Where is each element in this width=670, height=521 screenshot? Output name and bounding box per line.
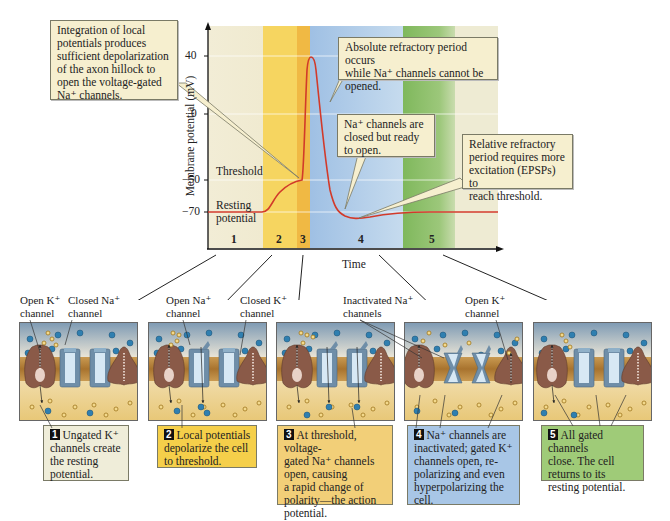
- step-line: hyperpolarizing the: [414, 481, 514, 494]
- step-line: the resting: [50, 455, 123, 468]
- step-line: polarizing and even: [414, 468, 514, 481]
- k-ion-icon: [606, 403, 610, 407]
- callout-line: Na⁺ channels.: [57, 89, 171, 102]
- k-ion-icon: [319, 413, 323, 417]
- callout-line: Relative refractory: [469, 138, 566, 151]
- step-line: a rapid change of: [284, 481, 387, 494]
- k-ion-icon: [243, 407, 247, 411]
- step-line: open, causing: [284, 468, 387, 481]
- step-line: channels create: [50, 442, 123, 455]
- step-line: Local potentials: [177, 429, 251, 441]
- step-box-5: 5All gated channels close. The cell retu…: [541, 425, 644, 481]
- na-ion-icon: [45, 408, 51, 414]
- step-box-3: 3At threshold, voltage- gated Na⁺ channe…: [277, 425, 393, 505]
- k-ion-icon: [544, 405, 548, 409]
- na-ion-icon: [238, 332, 244, 338]
- k-ion-icon: [499, 407, 503, 411]
- na-ion-icon: [334, 330, 340, 336]
- na-ion-icon: [440, 332, 446, 338]
- label-open-k-channel-1: Open K⁺channel: [20, 294, 60, 319]
- k-ion-icon: [54, 343, 58, 347]
- na-ion-icon: [541, 336, 547, 342]
- k-ion-icon: [191, 413, 195, 417]
- na-ion-icon: [623, 332, 629, 338]
- na-ion-icon: [127, 340, 133, 346]
- membrane-illustration: [405, 323, 522, 420]
- y-tick-label-0: 0: [191, 107, 197, 119]
- label-inactivated-na-channels: Inactivated Na⁺channels: [343, 294, 413, 319]
- k-ion-icon: [299, 331, 303, 335]
- y-axis-label: Membrane potential (mV): [184, 66, 196, 206]
- na-ion-icon: [256, 340, 262, 346]
- k-ion-icon: [48, 399, 52, 403]
- k-ion-icon: [628, 407, 632, 411]
- step-line: channels open, re-: [414, 455, 514, 468]
- k-ion-icon: [114, 407, 118, 411]
- k-ion-icon: [257, 401, 261, 405]
- step-box-4: 4Na⁺ channels are inactivated; gated K⁺ …: [407, 425, 520, 505]
- callout-line: to open.: [344, 144, 428, 157]
- membrane-panel-3: [276, 322, 395, 421]
- resting-label-1: Resting: [216, 199, 251, 212]
- step-line: At threshold, voltage-: [284, 429, 357, 454]
- phase-number-1: 1: [231, 233, 237, 245]
- membrane-illustration: [20, 323, 137, 420]
- step-line: Na⁺ channels are: [427, 429, 507, 441]
- na-ion-icon: [304, 412, 310, 418]
- k-ion-icon: [287, 405, 291, 409]
- membrane-illustration: [277, 323, 394, 420]
- k-ion-icon: [104, 413, 108, 417]
- na-ion-icon: [434, 346, 440, 352]
- k-ion-icon: [159, 405, 163, 409]
- step-line: potential.: [284, 507, 387, 520]
- integration-callout: Integration of local potentials produces…: [50, 20, 178, 100]
- k-ion-icon: [562, 399, 566, 403]
- k-ion-icon: [30, 405, 34, 409]
- step-line: polarity—the action: [284, 494, 387, 507]
- na-ion-icon: [109, 332, 115, 338]
- k-ion-icon: [564, 339, 568, 343]
- na-ion-icon: [494, 332, 500, 338]
- step-line: depolarize the cell: [164, 442, 251, 455]
- step-line: potential.: [50, 468, 123, 481]
- k-ion-icon: [305, 399, 309, 403]
- y-tick-label-40: 40: [185, 49, 197, 61]
- absolute-refractory-callout: Absolute refractory period occurs while …: [338, 37, 498, 80]
- k-ion-icon: [515, 337, 519, 341]
- phase-number-2: 2: [276, 233, 282, 245]
- label-open-k-channel-4: Open K⁺channel: [465, 294, 505, 319]
- na-ion-icon: [569, 332, 575, 338]
- k-ion-icon: [46, 331, 50, 335]
- k-ion-icon: [221, 403, 225, 407]
- na-ion-icon: [156, 336, 162, 342]
- resting-label-2: potential: [216, 212, 256, 225]
- na-ion-icon: [354, 404, 360, 410]
- k-ion-icon: [171, 331, 175, 335]
- na-ion-icon: [412, 336, 418, 342]
- na-ion-icon: [55, 332, 61, 338]
- phase-number-3: 3: [300, 233, 306, 245]
- na-ion-icon: [326, 404, 332, 410]
- k-ion-icon: [349, 403, 353, 407]
- step-line: resting potential.: [548, 481, 638, 494]
- na-ion-icon: [462, 330, 468, 336]
- k-ion-icon: [427, 331, 431, 335]
- callout-line: excitation (EPSPs) to: [469, 164, 566, 190]
- x-axis-arrow-icon: [496, 246, 504, 252]
- phase-band-2: [263, 26, 297, 248]
- phase-number-4: 4: [358, 233, 364, 245]
- k-ion-icon: [73, 405, 77, 409]
- na-ion-icon: [242, 348, 248, 354]
- k-ion-icon: [560, 333, 564, 337]
- na-ion-icon: [184, 332, 190, 338]
- k-ion-icon: [618, 413, 622, 417]
- na-ion-icon: [541, 410, 547, 416]
- na-ion-icon: [206, 330, 212, 336]
- step-line: close. The cell: [548, 455, 638, 468]
- callout-line: Na⁺ channels are: [344, 118, 428, 131]
- na-ion-icon: [498, 348, 504, 354]
- callout-line: period requires more: [469, 151, 566, 164]
- step-box-1: 1Ungated K⁺ channels create the resting …: [43, 425, 129, 481]
- k-ion-icon: [50, 337, 54, 341]
- k-ion-icon: [311, 335, 315, 339]
